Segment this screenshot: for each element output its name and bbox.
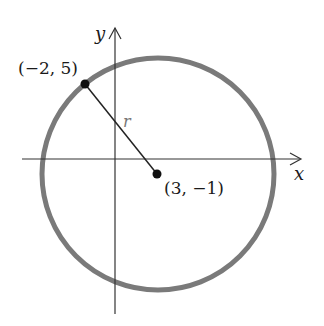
x-axis-label: x xyxy=(294,163,304,184)
circle-diagram: y x (−2, 5) (3, −1) r xyxy=(0,0,324,326)
radius-line xyxy=(85,84,157,174)
center-label: (3, −1) xyxy=(164,178,224,198)
y-axis-label: y xyxy=(94,23,106,44)
center-dot xyxy=(153,170,162,179)
radius-label: r xyxy=(123,112,132,131)
point-on-circle-dot xyxy=(81,80,90,89)
point-on-circle-label: (−2, 5) xyxy=(18,58,78,78)
